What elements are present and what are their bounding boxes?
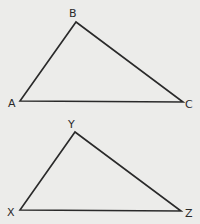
vertex-label-y: Y: [67, 118, 75, 131]
vertex-label-b: B: [69, 7, 77, 20]
triangle-xyz-shape: [20, 132, 181, 211]
triangle-xyz: X Y Z: [7, 118, 193, 220]
diagram-canvas: A B C X Y Z: [0, 0, 200, 224]
triangle-abc: A B C: [8, 7, 193, 111]
vertex-label-c: C: [185, 98, 193, 111]
triangle-abc-shape: [20, 22, 183, 102]
vertex-label-x: X: [7, 206, 15, 219]
vertex-label-z: Z: [185, 207, 193, 220]
triangles-figure: A B C X Y Z: [0, 0, 200, 224]
vertex-label-a: A: [8, 97, 16, 110]
